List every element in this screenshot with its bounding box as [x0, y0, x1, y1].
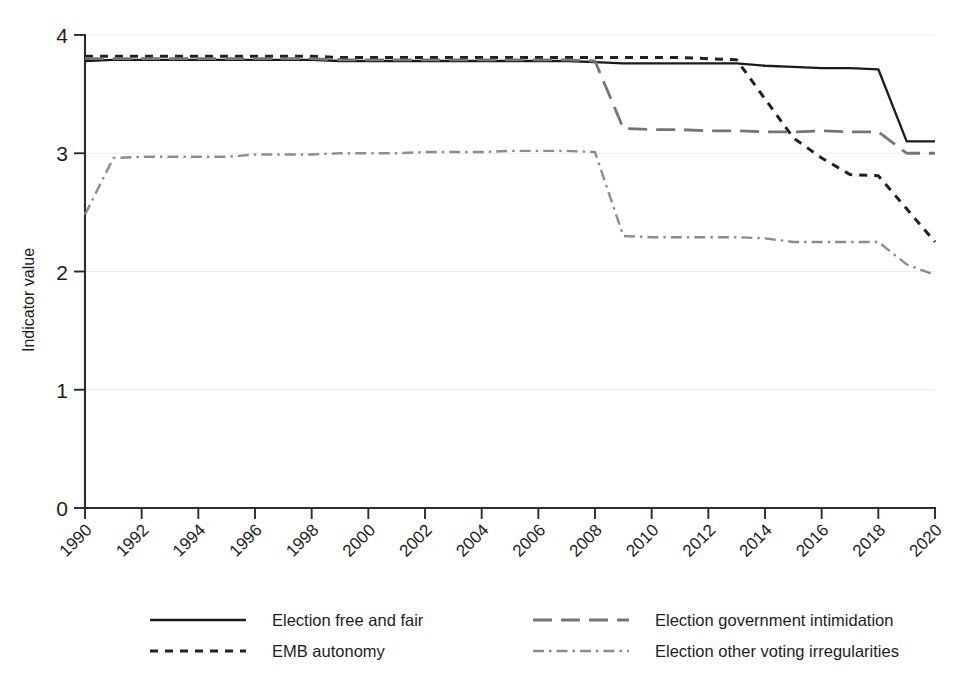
series-line-election-government-intimidation: [85, 59, 935, 154]
legend-label-emb-autonomy: EMB autonomy: [272, 642, 386, 660]
x-tick-label: 2020: [906, 520, 946, 560]
x-tick-label: 2008: [566, 520, 606, 560]
series-line-election-other-voting-irregularities: [85, 151, 935, 275]
y-tick-label: 2: [56, 261, 68, 284]
y-axis-title: Indicator value: [20, 248, 37, 352]
y-tick-label: 1: [56, 379, 68, 402]
x-tick-label: 2002: [396, 520, 436, 560]
x-tick-label: 2016: [792, 520, 832, 560]
y-tick-label: 3: [56, 142, 68, 165]
x-tick-label: 2014: [736, 520, 776, 560]
x-tick-label: 1994: [169, 520, 209, 560]
line-chart-svg: 01234 1990199219941996199820002002200420…: [0, 0, 969, 681]
x-tick-label: 2012: [679, 520, 719, 560]
y-tick-label: 0: [56, 497, 68, 520]
x-axis-ticks: 1990199219941996199820002002200420062008…: [56, 508, 946, 561]
y-axis-ticks: 01234: [56, 24, 85, 520]
legend-label-election-other-voting-irregularities: Election other voting irregularities: [655, 642, 899, 660]
x-tick-label: 1998: [282, 520, 322, 560]
x-tick-label: 2004: [452, 520, 492, 560]
chart-figure: 01234 1990199219941996199820002002200420…: [0, 0, 969, 681]
x-tick-label: 2018: [849, 520, 889, 560]
legend-label-election-government-intimidation: Election government intimidation: [655, 611, 893, 629]
series-lines: [85, 56, 935, 275]
x-tick-label: 2010: [622, 520, 662, 560]
x-tick-label: 2000: [339, 520, 379, 560]
legend-label-election-free-and-fair: Election free and fair: [272, 611, 424, 629]
gridlines: [85, 35, 935, 508]
x-tick-label: 1990: [56, 520, 96, 560]
chart-legend: Election free and fairElection governmen…: [150, 611, 899, 660]
series-line-emb-autonomy: [85, 56, 935, 242]
x-tick-label: 1996: [226, 520, 266, 560]
y-tick-label: 4: [56, 24, 68, 47]
x-tick-label: 1992: [112, 520, 152, 560]
x-tick-label: 2006: [509, 520, 549, 560]
series-line-election-free-and-fair: [85, 60, 935, 142]
